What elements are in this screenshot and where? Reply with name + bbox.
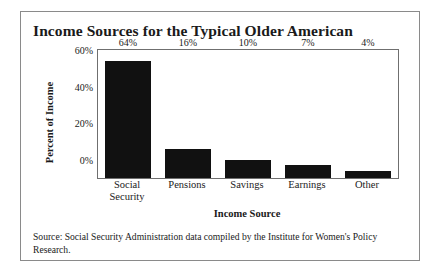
bar-pensions: 16% bbox=[165, 50, 211, 178]
bar-savings: 10% bbox=[225, 50, 271, 178]
x-tick-label-pensions: Pensions bbox=[164, 179, 210, 202]
x-tick-label-other: Other bbox=[344, 179, 390, 202]
x-tick-label-earnings: Earnings bbox=[284, 179, 330, 202]
y-tick-label-20: 20% bbox=[75, 118, 93, 129]
bar-other: 4% bbox=[345, 50, 391, 178]
bar-rect bbox=[225, 160, 271, 178]
bar-earnings: 7% bbox=[285, 50, 331, 178]
bar-series: 64% 16% 10% 7% 4% bbox=[98, 50, 398, 178]
bar-rect bbox=[285, 165, 331, 178]
bar-rect bbox=[345, 171, 391, 178]
bar-value-label: 4% bbox=[361, 37, 374, 48]
bar-social-security: 64% bbox=[105, 50, 151, 178]
x-axis-tick-labels: Social Security Pensions Savings Earning… bbox=[97, 179, 397, 202]
plot-area: 60% 40% 20% 0% 64% 16% 10% 7% 4% bbox=[97, 49, 399, 179]
bar-rect bbox=[105, 61, 151, 178]
bar-value-label: 16% bbox=[179, 37, 197, 48]
x-tick-label-social-security: Social Security bbox=[104, 179, 150, 202]
x-axis-title: Income Source bbox=[97, 208, 397, 219]
bar-value-label: 64% bbox=[119, 37, 137, 48]
y-tick-label-0: 0% bbox=[80, 154, 93, 165]
bar-value-label: 7% bbox=[301, 37, 314, 48]
y-axis-title: Percent of Income bbox=[44, 68, 55, 178]
page-title: Income Sources for the Typical Older Ame… bbox=[33, 22, 409, 40]
x-tick-label-savings: Savings bbox=[224, 179, 270, 202]
y-tick-label-40: 40% bbox=[75, 81, 93, 92]
bar-rect bbox=[165, 149, 211, 178]
figure-frame: Income Sources for the Typical Older Ame… bbox=[20, 11, 420, 261]
y-tick-label-60: 60% bbox=[75, 45, 93, 56]
source-note: Source: Social Security Administration d… bbox=[33, 231, 407, 256]
bar-value-label: 10% bbox=[239, 37, 257, 48]
